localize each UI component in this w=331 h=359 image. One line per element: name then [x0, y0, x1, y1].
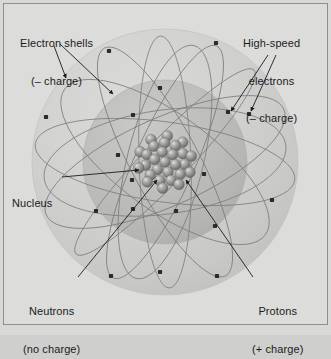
electron-8 — [130, 178, 134, 182]
label-high-speed-line1: High-speed — [243, 37, 300, 50]
electron-16 — [158, 270, 162, 274]
electron-17 — [215, 274, 219, 278]
label-neutrons-line2: (no charge) — [23, 343, 80, 356]
label-high-speed-electrons: High-speed electrons (– charge) — [243, 12, 300, 150]
electron-14 — [270, 198, 274, 202]
label-neutrons: Neutrons (no charge) — [23, 280, 80, 359]
electron-3 — [131, 113, 135, 117]
nucleon-17 — [133, 163, 144, 174]
label-electron-shells-line2: (– charge) — [20, 75, 93, 88]
electron-4 — [44, 115, 48, 119]
label-high-speed-line2: electrons — [243, 75, 300, 88]
electron-11 — [174, 209, 178, 213]
nucleon-21 — [175, 169, 186, 180]
label-nucleus-line1: Nucleus — [12, 197, 52, 210]
electron-15 — [109, 274, 113, 278]
electron-0 — [107, 49, 111, 53]
label-electron-shells-line1: Electron shells — [20, 37, 93, 50]
electron-12 — [94, 209, 98, 213]
electron-7 — [116, 153, 120, 157]
label-electron-shells: Electron shells (– charge) — [20, 12, 93, 112]
nucleon-20 — [184, 167, 195, 178]
label-nucleus: Nucleus — [12, 172, 52, 235]
electron-2 — [158, 86, 162, 90]
electron-1 — [214, 41, 218, 45]
nucleon-25 — [142, 176, 153, 187]
label-protons-line2: (+ charge) — [252, 343, 303, 356]
label-protons: Protons (+ charge) — [252, 280, 303, 359]
label-high-speed-line3: (– charge) — [243, 112, 300, 125]
nucleon-26 — [174, 179, 185, 190]
nucleon-12 — [149, 154, 160, 165]
electron-9 — [202, 172, 206, 176]
label-protons-line1: Protons — [252, 305, 303, 318]
label-neutrons-line1: Neutrons — [23, 305, 80, 318]
nucleon-27 — [157, 183, 168, 194]
electron-5 — [226, 110, 230, 114]
